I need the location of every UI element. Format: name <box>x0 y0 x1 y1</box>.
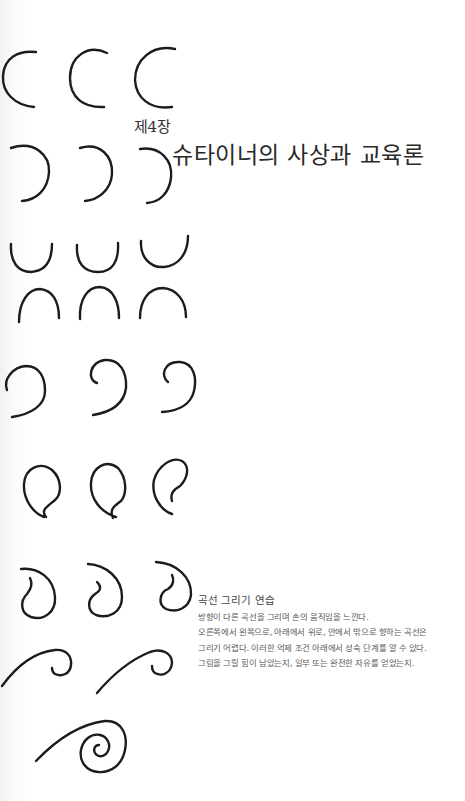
caption-line: 그리기 어렵다. 이러한 억제 조건 아래에서 성숙 단계를 알 수 있다. <box>198 641 460 656</box>
curve-drawing <box>80 147 112 201</box>
row-hook-curl <box>6 360 195 417</box>
curve-drawing <box>140 149 171 203</box>
row-inward-spiral-left <box>24 460 187 518</box>
curve-drawing <box>24 466 60 517</box>
curve-drawing <box>97 651 172 693</box>
figure-caption: 곡선 그리기 연습 방향이 다른 곡선을 그리며 손의 움직임을 느낀다. 오른… <box>198 592 460 671</box>
curve-drawing <box>21 569 55 618</box>
curve-drawing <box>162 362 195 412</box>
row-inward-spiral-bottom <box>21 562 191 618</box>
book-page: 제4장 슈타이너의 사상과 교육론 곡선 그리기 연습 방향이 다른 곡선을 그… <box>0 0 465 801</box>
row-spiral <box>36 721 126 772</box>
curve-drawing <box>11 244 52 272</box>
curve-drawing <box>70 50 107 107</box>
curve-drawing <box>11 146 49 201</box>
curve-drawing <box>6 366 45 417</box>
curve-drawing <box>3 52 36 107</box>
curve-drawing <box>36 721 126 772</box>
row-u-cup <box>11 236 188 272</box>
caption-line: 방향이 다른 곡선을 그리며 손의 움직임을 느낀다. <box>198 610 460 625</box>
row-wave-curl <box>2 650 172 693</box>
curve-drawing <box>91 464 125 518</box>
caption-line: 오른쪽에서 왼쪽으로, 아래에서 위로, 안에서 밖으로 향하는 곡선은 <box>198 625 460 640</box>
curve-drawing <box>19 289 59 322</box>
curve-drawing <box>2 650 71 686</box>
row-right-open-arc <box>11 146 171 203</box>
caption-title: 곡선 그리기 연습 <box>198 592 460 607</box>
row-n-arch <box>19 287 186 322</box>
curve-drawing <box>141 236 188 267</box>
chapter-title: 슈타이너의 사상과 교육론 <box>172 136 424 170</box>
curve-drawing <box>140 288 186 318</box>
curve-drawing <box>91 360 126 415</box>
row-left-open-arc <box>3 48 175 107</box>
curve-drawing <box>135 48 175 107</box>
curve-drawing-exercises <box>0 0 465 801</box>
caption-line: 그림을 그릴 힘이 남았는지, 일부 또는 완전한 자유를 얻었는지. <box>198 656 460 671</box>
curve-drawing <box>156 562 191 610</box>
curve-drawing <box>77 243 118 272</box>
curve-drawing <box>88 564 122 616</box>
curve-drawing <box>80 287 119 319</box>
chapter-number: 제4장 <box>134 115 170 136</box>
curve-drawing <box>153 460 187 514</box>
